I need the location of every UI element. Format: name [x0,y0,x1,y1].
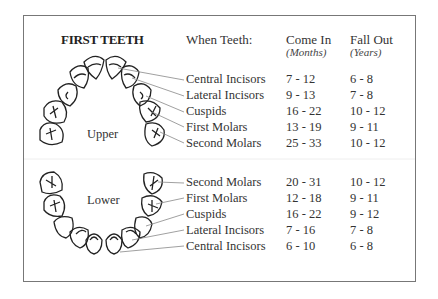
upper-row-come-in: 13 - 19 [286,120,321,135]
upper-row-name: First Molars [186,120,247,135]
lower-row-come-in: 12 - 18 [286,191,321,206]
lower-row-fall-out: 9 - 11 [350,191,379,206]
leader-lines [118,68,184,252]
upper-row-fall-out: 9 - 11 [350,120,379,135]
upper-row-name: Central Incisors [186,72,266,87]
lower-row-fall-out: 10 - 12 [350,175,385,190]
upper-row-name: Second Molars [186,136,261,151]
upper-label: Upper [87,127,118,142]
chart-title: FIRST TEETH [61,32,144,48]
upper-row-fall-out: 10 - 12 [350,104,385,119]
upper-row-come-in: 25 - 33 [286,136,321,151]
lower-row-name: Second Molars [186,175,261,190]
lower-row-come-in: 7 - 16 [286,223,315,238]
lower-row-come-in: 16 - 22 [286,207,321,222]
lower-row-name: Central Incisors [186,239,266,254]
lower-label: Lower [87,193,120,208]
upper-row-come-in: 16 - 22 [286,104,321,119]
upper-row-name: Lateral Incisors [186,88,264,103]
lower-row-come-in: 20 - 31 [286,175,321,190]
upper-row-name: Cuspids [186,104,226,119]
lower-row-come-in: 6 - 10 [286,239,315,254]
lower-row-fall-out: 7 - 8 [350,223,373,238]
upper-row-fall-out: 7 - 8 [350,88,373,103]
lower-row-fall-out: 6 - 8 [350,239,373,254]
header-fall-out-unit: (Years) [350,46,381,58]
upper-row-come-in: 9 - 13 [286,88,315,103]
upper-row-come-in: 7 - 12 [286,72,315,87]
lower-row-name: Cuspids [186,207,226,222]
upper-row-fall-out: 10 - 12 [350,136,385,151]
upper-row-fall-out: 6 - 8 [350,72,373,87]
lower-row-fall-out: 9 - 12 [350,207,379,222]
header-come-in-unit: (Months) [286,46,326,58]
lower-row-name: First Molars [186,191,247,206]
lower-row-name: Lateral Incisors [186,223,264,238]
lower-teeth-icon [40,172,162,254]
header-teeth: When Teeth: [186,32,252,48]
